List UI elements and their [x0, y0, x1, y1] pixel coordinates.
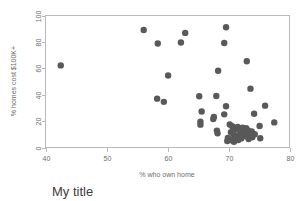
y-tick-label: 100 — [35, 11, 42, 23]
y-axis-label: % homes cost $100K+ — [10, 46, 17, 116]
chart-container: 4050607080 020406080100 % who own home %… — [0, 0, 307, 201]
x-tick-label: 40 — [43, 155, 51, 162]
y-tick-label: 80 — [35, 39, 42, 47]
data-point — [210, 116, 216, 122]
data-point — [256, 123, 262, 129]
x-tick-label: 70 — [226, 155, 234, 162]
y-tick-label: 40 — [35, 92, 42, 100]
data-point — [238, 135, 244, 141]
data-point — [249, 134, 255, 140]
data-point — [271, 119, 277, 125]
data-point — [198, 108, 204, 114]
page-title: My title — [52, 184, 93, 199]
y-axis-ticks: 020406080100 — [35, 11, 46, 151]
data-points-layer — [58, 24, 278, 145]
data-point — [141, 27, 147, 33]
data-point — [238, 129, 244, 135]
data-point — [262, 102, 268, 108]
x-tick-label: 80 — [287, 155, 295, 162]
data-point — [178, 39, 184, 45]
data-point — [154, 95, 160, 101]
y-tick-label: 60 — [35, 65, 42, 73]
data-point — [244, 58, 250, 64]
plot-frame — [46, 16, 290, 148]
data-point — [224, 138, 230, 144]
data-point — [182, 30, 188, 36]
data-point — [251, 111, 257, 117]
data-point — [155, 40, 161, 46]
data-point — [196, 93, 202, 99]
data-point — [221, 40, 227, 46]
x-axis-label: % who own home — [139, 171, 194, 178]
data-point — [161, 99, 167, 105]
x-axis-ticks: 4050607080 — [43, 148, 295, 162]
data-point — [223, 24, 229, 30]
x-tick-label: 60 — [165, 155, 173, 162]
data-point — [213, 93, 219, 99]
data-point — [221, 111, 227, 117]
data-point — [231, 138, 237, 144]
data-point — [257, 135, 263, 141]
data-point — [215, 68, 221, 74]
data-point — [165, 72, 171, 78]
scatter-plot: 4050607080 020406080100 % who own home %… — [0, 0, 307, 201]
data-point — [223, 103, 229, 109]
data-point — [197, 121, 203, 127]
y-tick-label: 0 — [35, 146, 42, 150]
data-point — [247, 85, 253, 91]
y-tick-label: 20 — [35, 118, 42, 126]
data-point — [58, 62, 64, 68]
x-tick-label: 50 — [104, 155, 112, 162]
data-point — [214, 130, 220, 136]
